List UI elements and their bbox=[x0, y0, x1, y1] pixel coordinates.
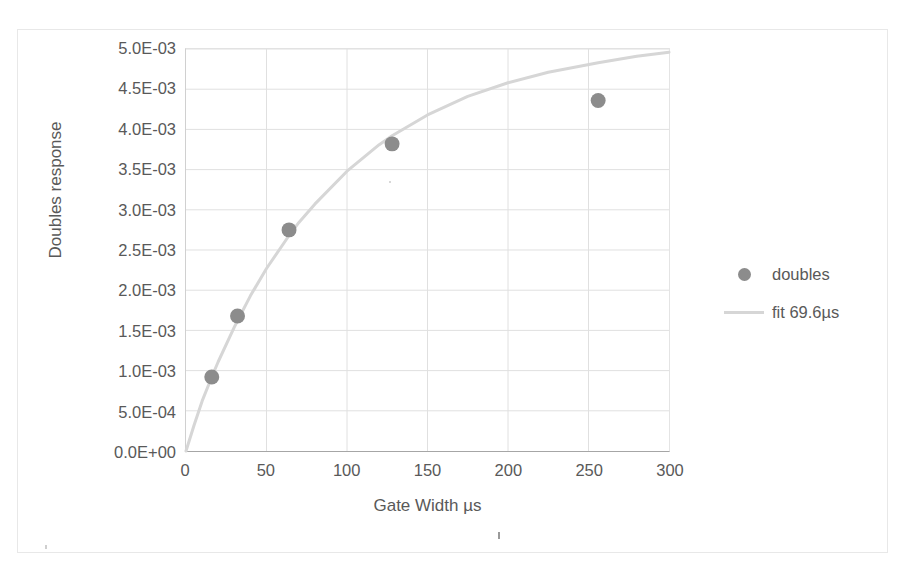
y-axis-tick-label: 0.0E+00 bbox=[114, 444, 176, 461]
data-point[interactable] bbox=[591, 93, 606, 108]
y-axis-title: Doubles response bbox=[47, 121, 64, 258]
scan-artifact bbox=[45, 545, 47, 549]
legend-item-doubles[interactable]: doubles bbox=[722, 255, 872, 293]
y-axis-tick-label: 1.0E-03 bbox=[118, 363, 176, 380]
data-point[interactable] bbox=[204, 370, 219, 385]
y-axis-tick-label: 2.5E-03 bbox=[118, 242, 176, 259]
x-axis-tick-label: 150 bbox=[414, 462, 442, 479]
y-axis-tick-label: 5.0E-03 bbox=[118, 40, 176, 57]
x-axis-tick-label: 250 bbox=[575, 462, 603, 479]
y-axis-tick-label: 1.5E-03 bbox=[118, 323, 176, 340]
data-series-layer[interactable] bbox=[186, 49, 669, 451]
data-point[interactable] bbox=[230, 308, 245, 323]
data-point[interactable] bbox=[282, 222, 297, 237]
x-axis-tick-labels: 050100150200250300 bbox=[185, 462, 670, 488]
y-axis-tick-label: 3.5E-03 bbox=[118, 161, 176, 178]
line-segment-icon bbox=[722, 311, 766, 314]
marker-circle-icon bbox=[722, 268, 766, 281]
legend-item-label: doubles bbox=[766, 265, 830, 284]
x-axis-tick-label: 0 bbox=[180, 462, 189, 479]
data-point[interactable] bbox=[385, 136, 400, 151]
x-axis-tick-label: 50 bbox=[257, 462, 275, 479]
plot-area[interactable] bbox=[185, 48, 670, 452]
x-axis-tick-label: 100 bbox=[333, 462, 361, 479]
scan-artifact bbox=[389, 181, 391, 183]
y-axis-tick-label: 4.0E-03 bbox=[118, 121, 176, 138]
legend-item-fit[interactable]: fit 69.6µs bbox=[722, 293, 872, 331]
x-axis-title: Gate Width µs bbox=[185, 497, 670, 514]
chart-legend: doubles fit 69.6µs bbox=[722, 255, 872, 331]
x-axis-tick-label: 300 bbox=[656, 462, 684, 479]
y-axis-tick-label: 4.5E-03 bbox=[118, 80, 176, 97]
y-axis-tick-label: 2.0E-03 bbox=[118, 282, 176, 299]
y-axis-tick-labels: 0.0E+005.0E-041.0E-031.5E-032.0E-032.5E-… bbox=[88, 48, 176, 452]
y-axis-tick-label: 3.0E-03 bbox=[118, 201, 176, 218]
y-axis-tick-label: 5.0E-04 bbox=[118, 403, 176, 420]
legend-item-label: fit 69.6µs bbox=[766, 303, 839, 322]
x-axis-tick-label: 200 bbox=[495, 462, 523, 479]
scan-artifact bbox=[498, 532, 500, 539]
